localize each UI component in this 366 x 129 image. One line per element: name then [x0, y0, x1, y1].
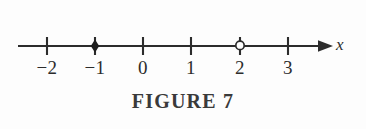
tick-label-2: 2 — [220, 58, 260, 78]
tick-label-0: 0 — [123, 58, 163, 78]
tick-label-3: 3 — [268, 58, 308, 78]
open-endpoint-marker — [236, 41, 244, 49]
figure-caption: FIGURE 7 — [0, 90, 366, 113]
axis-variable-label: x — [336, 35, 344, 55]
closed-endpoint-marker — [91, 40, 99, 53]
tick-label-minus2: −2 — [27, 58, 67, 78]
tick-label-1: 1 — [171, 58, 211, 78]
tick-label-minus1: −1 — [75, 58, 115, 78]
figure-container: −2 −1 0 1 2 3 x FIGURE 7 — [0, 0, 366, 129]
axis-arrowhead-icon — [318, 40, 333, 52]
